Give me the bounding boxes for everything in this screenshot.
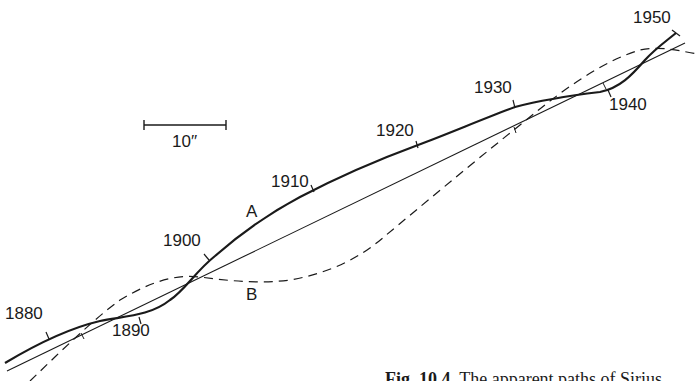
year-label-1950: 1950 bbox=[633, 9, 671, 26]
year-label-1920: 1920 bbox=[376, 122, 414, 139]
figure-caption: Fig. 10.4. The apparent paths of Sirius bbox=[385, 370, 662, 381]
centre-of-mass-path bbox=[7, 43, 685, 371]
scale-bar bbox=[144, 120, 226, 130]
figure-number: Fig. 10.4. bbox=[385, 369, 455, 381]
year-label-1890: 1890 bbox=[112, 322, 150, 339]
year-ticks bbox=[46, 30, 680, 339]
figure-page: 10′′ 1880 1890 1900 1910 1920 1930 1940 … bbox=[0, 0, 700, 381]
year-label-1880: 1880 bbox=[5, 305, 43, 322]
curve-label-a: A bbox=[246, 203, 257, 220]
curve-label-b: B bbox=[246, 286, 257, 303]
centre-of-mass-ticks bbox=[81, 83, 606, 339]
sirius-paths-diagram bbox=[0, 0, 700, 381]
year-label-1940: 1940 bbox=[609, 96, 647, 113]
year-label-1910: 1910 bbox=[271, 173, 309, 190]
scale-bar-label: 10′′ bbox=[172, 133, 197, 150]
tick-1880 bbox=[46, 332, 49, 339]
figure-caption-text: The apparent paths of Sirius bbox=[455, 369, 662, 381]
year-label-1900: 1900 bbox=[163, 232, 201, 249]
tick-1900 bbox=[204, 254, 209, 260]
year-label-1930: 1930 bbox=[474, 79, 512, 96]
